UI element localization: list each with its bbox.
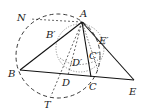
label-E: E <box>128 86 137 97</box>
label-C: C <box>89 81 97 92</box>
label-E-prime: E′ <box>98 35 109 46</box>
segment-AN <box>30 19 82 22</box>
label-D: D <box>61 77 70 88</box>
label-A: A <box>79 8 87 19</box>
label-C-prime: C′ <box>89 50 100 61</box>
geometry-diagram: A B C D E T N B′ C′ D′ E′ <box>0 0 148 112</box>
label-B: B <box>7 68 15 79</box>
label-N: N <box>16 12 27 23</box>
label-D-prime: D′ <box>71 57 83 68</box>
label-T: T <box>44 99 52 110</box>
label-B-prime: B′ <box>45 29 56 40</box>
segment-BE <box>20 70 134 80</box>
